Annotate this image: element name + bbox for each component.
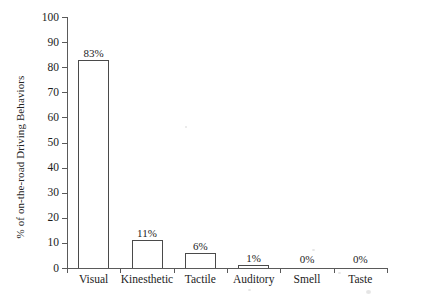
bar: 11% xyxy=(132,240,163,268)
bar-value-label: 0% xyxy=(300,254,315,265)
bar-value-label: 1% xyxy=(246,253,261,264)
bar: 6% xyxy=(185,253,216,268)
scan-speckle xyxy=(366,290,371,294)
y-axis-tick-label: 90 xyxy=(48,37,60,49)
y-axis-tick-label: 40 xyxy=(48,162,60,174)
chart-page: % of on-the-road Driving Behaviors 01020… xyxy=(0,0,422,299)
scan-speckle xyxy=(185,126,187,128)
bar: 1% xyxy=(238,265,269,268)
y-axis-tick-label: 60 xyxy=(48,112,60,124)
x-axis-category-label: Tactile xyxy=(185,274,216,286)
bar-value-label: 11% xyxy=(137,228,157,239)
x-axis-category-label: Taste xyxy=(348,274,372,286)
bar-value-label: 6% xyxy=(193,241,208,252)
scan-speckle xyxy=(312,249,315,251)
x-axis-tick xyxy=(334,268,335,273)
bar-value-label: 0% xyxy=(353,254,368,265)
y-axis-tick-label: 10 xyxy=(48,238,60,250)
x-axis-tick xyxy=(387,268,388,273)
x-axis-category-label: Smell xyxy=(294,274,321,286)
scan-speckle xyxy=(338,272,341,274)
y-axis-tick: 30 xyxy=(62,193,67,194)
x-axis-tick xyxy=(227,268,228,273)
y-axis-tick: 90 xyxy=(62,42,67,43)
y-axis-tick-label: 30 xyxy=(48,187,60,199)
bar: 83% xyxy=(78,60,109,268)
y-axis-tick: 50 xyxy=(62,143,67,144)
x-axis-category-label: Kinesthetic xyxy=(121,274,173,286)
y-axis-tick-label: 80 xyxy=(48,62,60,74)
y-axis-tick: 80 xyxy=(62,67,67,68)
plot-area: 0102030405060708090100 83%11%6%1%0%0% Vi… xyxy=(67,17,387,268)
bar-value-label: 83% xyxy=(84,48,104,59)
y-axis-tick-label: 100 xyxy=(42,12,59,24)
x-axis-category-label: Auditory xyxy=(233,274,275,286)
y-axis-tick: 70 xyxy=(62,92,67,93)
y-axis-tick-label: 0 xyxy=(53,263,59,275)
y-axis-tick: 100 xyxy=(62,17,67,18)
y-axis-tick-label: 20 xyxy=(48,213,60,225)
y-axis-tick-label: 50 xyxy=(48,137,60,149)
x-axis-category-label: Visual xyxy=(79,274,108,286)
y-axis-tick: 60 xyxy=(62,117,67,118)
x-axis-tick xyxy=(280,268,281,273)
y-axis-line xyxy=(67,17,68,268)
y-axis-tick: 40 xyxy=(62,168,67,169)
y-axis-tick: 20 xyxy=(62,218,67,219)
x-axis-tick xyxy=(67,268,68,273)
y-axis-title: % of on-the-road Driving Behaviors xyxy=(11,32,29,283)
y-axis-tick: 10 xyxy=(62,243,67,244)
y-axis-tick-label: 70 xyxy=(48,87,60,99)
x-axis-tick xyxy=(174,268,175,273)
scan-speckle xyxy=(248,289,251,291)
